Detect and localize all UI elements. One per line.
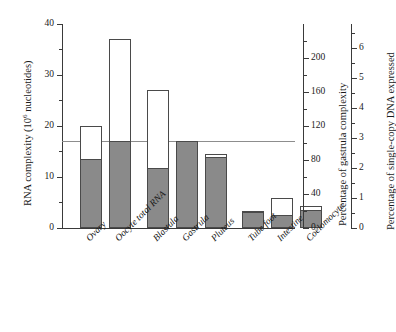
right-axis-1-tick-0 bbox=[304, 228, 309, 229]
bar-gastrula-shaded bbox=[176, 141, 198, 228]
right-axis-2-minor-tick-0-5 bbox=[352, 213, 355, 214]
right-axis-2-tick-1 bbox=[352, 198, 357, 199]
right-axis-1-tick-160 bbox=[304, 92, 309, 93]
right-axis-1-minor-tick-140 bbox=[304, 109, 307, 110]
right-axis-2-label-0: 0 bbox=[359, 223, 364, 233]
right-axis-2-title: Percentage of single-copy DNA expressed bbox=[385, 52, 396, 230]
right-axis-2-tick-5 bbox=[352, 78, 357, 79]
bar-gastrula[interactable] bbox=[176, 141, 198, 228]
right-axis-1-minor-tick-100 bbox=[304, 143, 307, 144]
right-axis-1-label-200: 200 bbox=[311, 53, 325, 63]
right-axis-2-label-5: 5 bbox=[359, 73, 364, 83]
bar-oocyte-total-rna[interactable] bbox=[109, 39, 131, 228]
right-axis-2-tick-3 bbox=[352, 138, 357, 139]
right-axis-2-minor-tick-2-5 bbox=[352, 153, 355, 154]
left-axis-label-40: 40 bbox=[28, 19, 54, 29]
right-axis-2-label-1: 1 bbox=[359, 193, 364, 203]
right-axis-2-label-6: 6 bbox=[359, 43, 364, 53]
right-axis-2-label-4: 4 bbox=[359, 103, 364, 113]
right-axis-1-tick-40 bbox=[304, 194, 309, 195]
right-axis-2-tick-4 bbox=[352, 108, 357, 109]
bar-oocyte-total-rna-shaded bbox=[109, 141, 131, 228]
right-axis-1-label-160: 160 bbox=[311, 87, 325, 97]
left-axis-label-0: 0 bbox=[28, 223, 54, 233]
right-axis-2-minor-tick-4-5 bbox=[352, 93, 355, 94]
right-axis-2-tick-2 bbox=[352, 168, 357, 169]
right-axis-1-label-40: 40 bbox=[311, 189, 321, 199]
left-axis-title: RNA complexity (106 nucleotides) bbox=[22, 60, 33, 206]
right-axis-2-label-2: 2 bbox=[359, 163, 364, 173]
right-axis-1-tick-120 bbox=[304, 126, 309, 127]
right-axis-1-minor-tick-180 bbox=[304, 75, 307, 76]
left-axis-title-exponent: 6 bbox=[21, 114, 29, 118]
right-axis-1-title: Percentage of gastrula complexity bbox=[337, 83, 348, 226]
right-axis-2-minor-tick-1-5 bbox=[352, 183, 355, 184]
right-axis-1-label-120: 120 bbox=[311, 121, 325, 131]
right-axis-1-label-0: 0 bbox=[311, 223, 316, 233]
right-axis-1-tick-200 bbox=[304, 58, 309, 59]
right-axis-1-minor-tick-220 bbox=[304, 41, 307, 42]
bars-layer bbox=[62, 24, 294, 228]
bar-ovary[interactable] bbox=[80, 126, 102, 228]
right-axis-2-tick-6 bbox=[352, 48, 357, 49]
bar-ovary-shaded bbox=[80, 159, 102, 228]
right-axis-1-minor-tick-60 bbox=[304, 177, 307, 178]
right-axis-2-minor-tick-5-5 bbox=[352, 63, 355, 64]
right-axis-1-minor-tick-20 bbox=[304, 211, 307, 212]
right-axis-1-tick-80 bbox=[304, 160, 309, 161]
left-axis-title-text-a: RNA complexity (10 bbox=[22, 118, 33, 206]
right-axis-2-tick-0 bbox=[352, 228, 357, 229]
left-axis-title-text-b: nucleotides) bbox=[22, 60, 33, 114]
right-axis-1-label-80: 80 bbox=[311, 155, 321, 165]
right-axis-2-label-3: 3 bbox=[359, 133, 364, 143]
right-axis-2-minor-tick-3-5 bbox=[352, 123, 355, 124]
right-axis-2-minor-tick-6-5 bbox=[352, 33, 355, 34]
